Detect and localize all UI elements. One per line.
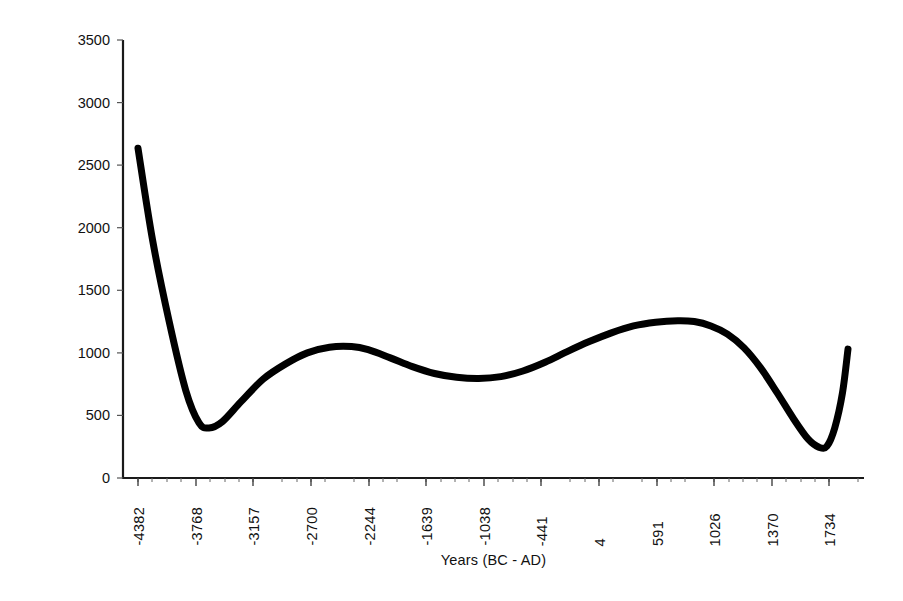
x-tick-label: -1038: [477, 507, 493, 546]
x-tick-label: -2700: [304, 507, 320, 546]
x-tick-label: -4382: [131, 507, 147, 546]
x-tick-label: 4: [592, 538, 608, 546]
pollen-count-line: [138, 148, 848, 448]
pollen-count-chart: Arboreal Pollen Count 0 500 1000 1500 20…: [0, 0, 903, 601]
x-tick-label: -3157: [246, 507, 262, 546]
x-tick-label: 591: [650, 521, 666, 546]
x-tick-label: -3768: [189, 507, 205, 546]
x-tick-label: 1734: [822, 513, 838, 546]
x-tick-label: -2244: [362, 507, 378, 546]
x-tick-label: -1639: [419, 507, 435, 546]
x-tick-label: 1026: [707, 513, 723, 546]
x-tick-label: 1370: [765, 513, 781, 546]
x-tick-label: -441: [534, 516, 550, 546]
x-axis-title: Years (BC - AD): [123, 552, 864, 568]
x-axis-major-ticks: [138, 478, 829, 486]
x-axis-tick-labels: -4382 -3768 -3157 -2700 -2244 -1639 -103…: [0, 486, 903, 546]
